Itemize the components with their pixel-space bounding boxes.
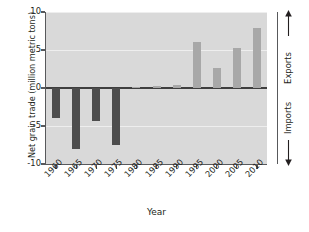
bar-1985: [153, 86, 161, 88]
bar-2000: [213, 68, 221, 88]
bar-1990: [173, 85, 181, 88]
direction-axis-spine: [277, 12, 278, 164]
bar-1980: [132, 87, 140, 88]
bar-2010: [253, 28, 261, 88]
plot-area: [46, 12, 267, 164]
y-tick-label--10: -10: [1, 158, 41, 168]
y-tick-label-10: 10: [1, 6, 41, 16]
bar-1965: [72, 88, 80, 149]
chart-figure: Net grain trade (million metric tons) 10…: [0, 0, 309, 232]
y-tick-10: [41, 11, 45, 12]
y-axis-spine: [45, 12, 46, 164]
y-tick-5: [41, 49, 45, 50]
imports-down-arrow-icon: [283, 140, 294, 166]
bar-1970: [92, 88, 100, 121]
y-tick-0: [41, 87, 45, 88]
gridline-10: [46, 12, 267, 13]
y-tick-label-0: 0: [1, 82, 41, 92]
bar-1960: [52, 88, 60, 118]
bar-2005: [233, 48, 241, 88]
bar-1995: [193, 42, 201, 88]
x-axis-title: Year: [46, 207, 267, 217]
y-tick-label--5: -5: [1, 120, 41, 130]
y-tick--5: [41, 125, 45, 126]
bar-1975: [112, 88, 120, 145]
y-tick-label-5: 5: [1, 44, 41, 54]
